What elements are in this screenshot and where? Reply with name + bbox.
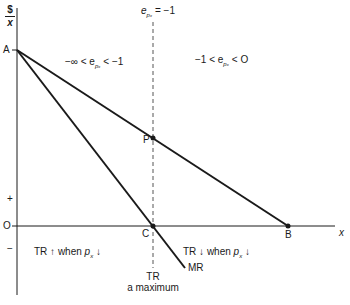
tr-maximum-line2: a maximum <box>118 282 188 293</box>
plus-sign: + <box>7 194 13 204</box>
tr-left-suffix: ↓ <box>93 246 101 257</box>
unit-elastic-label: epₓ = −1 <box>141 6 175 18</box>
point-c-dot <box>151 224 156 229</box>
point-b-label: B <box>285 230 292 240</box>
inelastic-suffix: < O <box>229 54 248 65</box>
elastic-prefix: −∞ < e <box>65 56 95 67</box>
tr-left-prefix: TR ↑ when <box>34 246 85 257</box>
point-b-dot <box>286 224 291 229</box>
unit-elastic-value: = −1 <box>152 5 175 16</box>
point-p-dot <box>151 136 156 141</box>
tr-left-note: TR ↑ when px ↓ <box>34 247 101 259</box>
x-axis-label: x <box>339 228 344 238</box>
mr-curve <box>17 50 185 268</box>
y-axis-label: $ x <box>5 5 15 28</box>
minus-sign: − <box>7 244 13 254</box>
diagram-canvas <box>0 0 350 305</box>
inelastic-region-label: −1 < epₓ < O <box>195 55 248 67</box>
point-a-label: A <box>3 45 10 55</box>
tr-maximum-line1: TR <box>118 271 188 282</box>
inelastic-prefix: −1 < e <box>195 54 223 65</box>
y-axis-label-denominator: x <box>5 17 15 28</box>
tr-right-suffix: ↓ <box>242 246 250 257</box>
elastic-suffix: < −1 <box>101 56 124 67</box>
point-c-label: C <box>142 229 149 239</box>
elastic-region-label: −∞ < epₓ < −1 <box>65 57 123 69</box>
tr-maximum-label: TR a maximum <box>118 271 188 293</box>
tr-right-note: TR ↓ when px ↓ <box>183 247 250 259</box>
point-p-label: P <box>143 135 150 145</box>
origin-label: O <box>3 221 11 231</box>
mr-label: MR <box>188 263 204 273</box>
y-axis-label-numerator: $ <box>5 5 15 17</box>
tr-right-prefix: TR ↓ when <box>183 246 234 257</box>
